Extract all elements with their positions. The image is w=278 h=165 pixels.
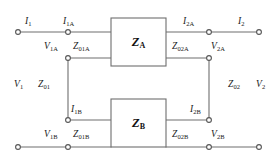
label-impedance-z02b: Z02B	[172, 130, 188, 140]
label-voltage-v1: V1	[14, 80, 23, 90]
label-current-i2a: I2A	[183, 17, 194, 27]
terminal-v2b-right	[257, 145, 262, 150]
circuit-diagram: ZA ZB I1 I1A I2A I2 V1A Z01A Z02A V2A V1…	[0, 0, 278, 165]
terminal-v1a-node	[66, 56, 71, 61]
label-voltage-v2b: V2B	[211, 130, 225, 140]
label-current-i2b: I2B	[190, 105, 201, 115]
label-current-i1a: I1A	[63, 17, 74, 27]
terminal-i1a	[66, 30, 71, 35]
label-impedance-z01b: Z01B	[73, 130, 89, 140]
block-b-label: ZB	[132, 117, 145, 130]
label-current-i2: I2	[238, 17, 245, 27]
label-impedance-z02a: Z02A	[172, 42, 189, 52]
terminal-v1b-node	[66, 145, 71, 150]
terminal-i1-left	[16, 30, 21, 35]
label-impedance-z01a: Z01A	[73, 42, 90, 52]
label-impedance-z02: Z02	[228, 80, 240, 90]
terminal-v1b-left	[16, 145, 21, 150]
label-voltage-v2a: V2A	[211, 42, 225, 52]
label-impedance-z01: Z01	[38, 80, 50, 90]
terminal-i1b-node	[66, 118, 71, 123]
terminal-i2a	[207, 30, 212, 35]
label-voltage-v2: V2	[256, 80, 265, 90]
label-voltage-v1b: V1B	[44, 130, 58, 140]
terminal-v2b-node	[207, 145, 212, 150]
block-a-label: ZA	[132, 36, 145, 49]
label-current-i1: I1	[25, 17, 32, 27]
label-current-i1b: I1B	[71, 105, 82, 115]
terminal-i2-right	[257, 30, 262, 35]
terminal-i2b-node	[207, 118, 212, 123]
terminal-v2a-node	[207, 56, 212, 61]
label-voltage-v1a: V1A	[44, 42, 58, 52]
